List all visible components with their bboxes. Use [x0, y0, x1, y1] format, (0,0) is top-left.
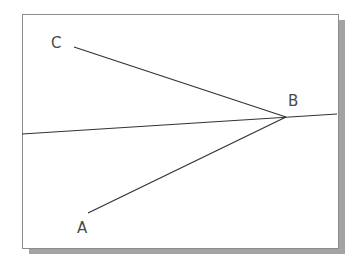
label-a: A — [77, 221, 87, 236]
segment-ab — [88, 117, 286, 213]
label-b: B — [288, 94, 298, 109]
line-through-b — [22, 114, 337, 134]
label-c: C — [51, 36, 61, 51]
segment-cb — [74, 47, 286, 117]
